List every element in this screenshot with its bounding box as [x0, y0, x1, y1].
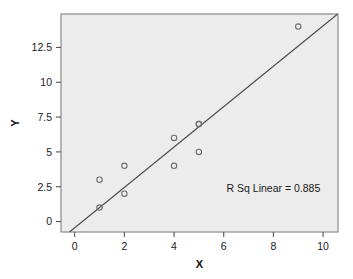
x-tick-label: 0 [72, 240, 78, 252]
x-axis-title: X [196, 258, 204, 270]
y-tick-label: 5 [46, 146, 52, 158]
x-tick-label: 8 [270, 240, 276, 252]
x-tick-label: 2 [121, 240, 127, 252]
y-axis-title: Y [9, 119, 21, 127]
plot-area-background [61, 14, 338, 232]
y-tick-label: 10 [40, 76, 52, 88]
chart-canvas: 0246810 02.557.51012.5 X Y R Sq Linear =… [0, 0, 353, 279]
scatter-plot-figure: 0246810 02.557.51012.5 X Y R Sq Linear =… [0, 0, 353, 279]
y-tick-label: 0 [46, 215, 52, 227]
y-tick-label: 7.5 [37, 111, 52, 123]
y-tick-label: 12.5 [32, 41, 53, 53]
x-tick-label: 4 [171, 240, 177, 252]
x-tick-label: 10 [317, 240, 329, 252]
y-tick-label: 2.5 [37, 181, 52, 193]
r-squared-annotation: R Sq Linear = 0.885 [227, 182, 321, 194]
x-tick-label: 6 [221, 240, 227, 252]
